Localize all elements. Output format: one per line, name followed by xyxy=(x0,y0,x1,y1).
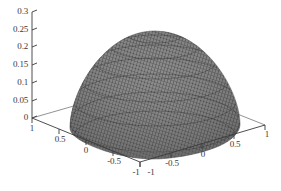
y-tick-label-0: 0 xyxy=(78,146,94,155)
z-tick-label-0.25: 0.25 xyxy=(2,25,28,34)
z-tick-label-0.1: 0.1 xyxy=(2,78,28,87)
y-tick-label--0.5: -0.5 xyxy=(101,157,127,166)
z-axis-ticks xyxy=(32,10,37,118)
z-tick-label-0.3: 0.3 xyxy=(2,7,28,16)
surface-mesh xyxy=(60,25,250,165)
surface-plot-svg xyxy=(0,0,281,191)
z-axis xyxy=(32,10,37,118)
y-tick-label-1: 1 xyxy=(24,124,40,133)
z-tick-label-0: 0 xyxy=(2,113,28,122)
x-tick-label-1: 1 xyxy=(259,130,275,139)
z-tick-label-0.05: 0.05 xyxy=(2,96,28,105)
x-tick-label-0: 0 xyxy=(195,150,211,159)
z-tick-label-0.2: 0.2 xyxy=(2,42,28,51)
z-tick-label-0.15: 0.15 xyxy=(2,60,28,69)
x-tick-label-0.5: 0.5 xyxy=(224,140,246,149)
x-tick-label--0.5: -0.5 xyxy=(159,159,185,168)
figure-canvas: 0.3 0.25 0.2 0.15 0.1 0.05 0 1 0.5 0 -0.… xyxy=(0,0,281,191)
x-tick-label--1: -1 xyxy=(141,168,161,177)
y-tick-label-0.5: 0.5 xyxy=(49,135,71,144)
